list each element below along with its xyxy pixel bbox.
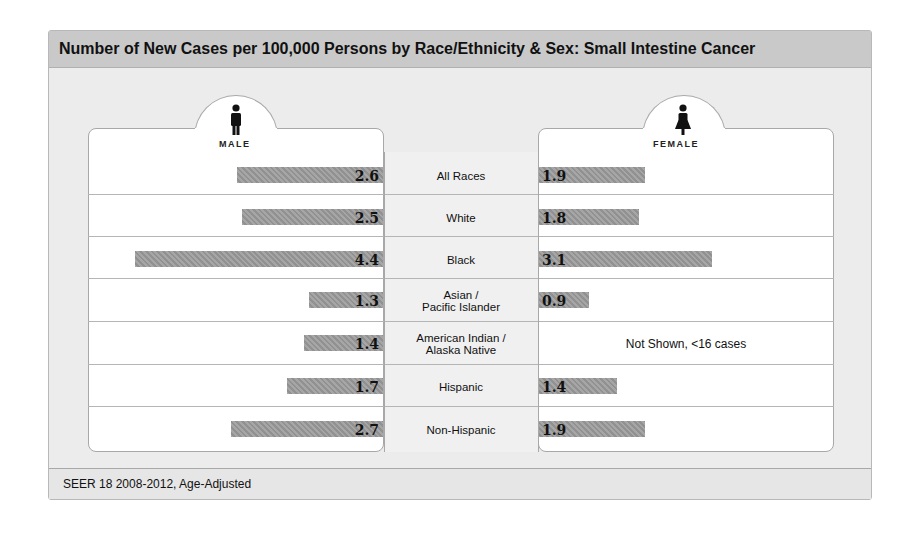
label-line: Asian / [443,289,478,301]
category-label: White [384,212,538,224]
male-bar: 1.3 [309,292,383,308]
male-value: 2.6 [355,168,379,184]
female-bar: 0.9 [538,292,589,308]
label-line: American Indian / [416,332,506,344]
category-label: Hispanic [384,381,538,393]
category-label: Asian /Pacific Islander [384,289,538,313]
female-value: 1.8 [542,210,566,226]
female-value: 1.4 [542,379,566,395]
male-bar: 4.4 [135,251,383,267]
chart-title: Number of New Cases per 100,000 Persons … [59,40,755,58]
male-value: 1.4 [355,336,379,352]
divider [538,152,539,452]
male-label: MALE [219,139,251,149]
footer-bar: SEER 18 2008-2012, Age-Adjusted [49,468,871,499]
male-value: 1.7 [355,379,379,395]
female-bar: 1.4 [538,378,617,394]
title-bar: Number of New Cases per 100,000 Persons … [49,31,871,68]
row-divider [384,406,538,407]
female-bar: 3.1 [538,251,712,267]
source-note: SEER 18 2008-2012, Age-Adjusted [63,477,251,491]
male-bar: 1.4 [304,335,383,351]
row-divider [384,321,538,322]
male-value: 2.5 [355,210,379,226]
label-line: Alaska Native [426,344,496,356]
not-shown-note: Not Shown, <16 cases [538,337,834,351]
female-value: 3.1 [542,252,566,268]
female-value: 0.9 [542,293,566,309]
female-bar: 1.9 [538,421,645,437]
male-bar: 2.6 [237,167,383,183]
male-bar: 2.7 [231,421,383,437]
row-divider [384,278,538,279]
female-value: 1.9 [542,422,566,438]
row-divider [384,236,538,237]
male-value: 2.7 [355,422,379,438]
female-bar: 1.9 [538,167,645,183]
female-value: 1.9 [542,168,566,184]
row-divider [384,364,538,365]
category-label: Black [384,254,538,266]
category-label: American Indian /Alaska Native [384,332,538,356]
female-label: FEMALE [653,139,699,149]
category-label: All Races [384,170,538,182]
category-label: Non-Hispanic [384,424,538,436]
female-person-icon [674,104,692,136]
divider [384,152,385,452]
male-person-icon [229,104,243,136]
male-bar: 2.5 [242,209,383,225]
female-bar: 1.8 [538,209,639,225]
row-divider [384,194,538,195]
male-value: 1.3 [355,293,379,309]
male-bar: 1.7 [287,378,383,394]
male-value: 4.4 [355,252,379,268]
label-line: Pacific Islander [422,301,500,313]
